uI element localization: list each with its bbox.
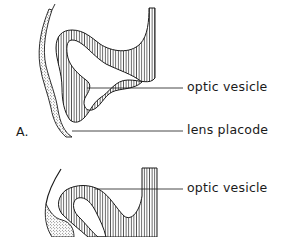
label-lens-placode: lens placode xyxy=(187,124,268,137)
optic-vesicle-wall-bottom xyxy=(59,168,157,237)
panel-label: A. xyxy=(16,126,29,139)
diagram-canvas xyxy=(0,0,284,237)
bottom-diagram xyxy=(45,168,183,237)
top-diagram xyxy=(39,4,183,137)
label-optic-vesicle-bottom: optic vesicle xyxy=(187,182,268,195)
optic-vesicle-wall xyxy=(56,8,155,122)
label-optic-vesicle: optic vesicle xyxy=(187,81,268,94)
